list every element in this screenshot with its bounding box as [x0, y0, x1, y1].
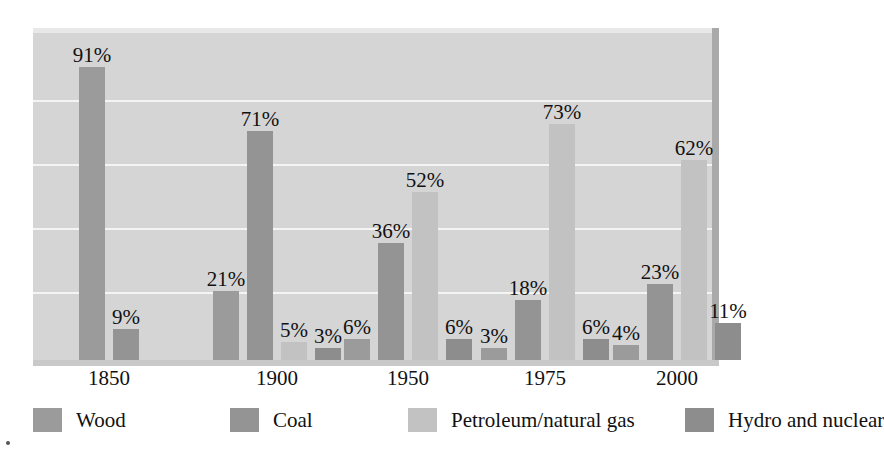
- legend-item[interactable]: Hydro and nuclear: [685, 408, 884, 432]
- bar-value-label: 9%: [112, 307, 140, 328]
- bar-value-label: 23%: [641, 262, 680, 283]
- bar[interactable]: 11%: [715, 323, 741, 360]
- bar-value-label: 36%: [372, 221, 411, 242]
- bar-value-label: 73%: [543, 102, 582, 123]
- legend-item[interactable]: Coal: [230, 408, 313, 432]
- bar-group-1950: 6%36%52%6%: [344, 33, 480, 360]
- bar[interactable]: 6%: [344, 339, 370, 360]
- bar-value-label: 6%: [445, 317, 473, 338]
- bar[interactable]: 18%: [515, 300, 541, 360]
- bar-group-2000: 4%23%62%11%: [613, 33, 749, 360]
- bar[interactable]: 52%: [412, 192, 438, 360]
- bar[interactable]: 3%: [481, 348, 507, 360]
- bar-value-label: 71%: [241, 109, 280, 130]
- bar[interactable]: 73%: [549, 124, 575, 360]
- bar-value-label: 52%: [406, 170, 445, 191]
- x-tick-label-1850: 1850: [88, 366, 130, 391]
- scan-artifact-speck: [6, 441, 10, 445]
- bar[interactable]: 4%: [613, 345, 639, 360]
- bar-value-label: 3%: [480, 326, 508, 347]
- bar-value-label: 18%: [509, 278, 548, 299]
- bar[interactable]: 71%: [247, 131, 273, 360]
- bar-value-label: 11%: [709, 301, 747, 322]
- legend-label: Wood: [76, 410, 126, 431]
- bar-value-label: 6%: [343, 317, 371, 338]
- bar[interactable]: 5%: [281, 342, 307, 360]
- plot-area: 91%9%21%71%5%3%6%36%52%6%3%18%73%6%4%23%…: [33, 33, 712, 360]
- chart-legend: WoodCoalPetroleum/natural gasHydro and n…: [33, 408, 773, 448]
- bar[interactable]: 36%: [378, 243, 404, 360]
- bar-value-label: 5%: [280, 320, 308, 341]
- bar-group-1850: 91%9%: [79, 33, 215, 360]
- x-tick-label-1900: 1900: [256, 366, 298, 391]
- bar[interactable]: 23%: [647, 284, 673, 360]
- legend-swatch-icon: [33, 408, 62, 432]
- legend-swatch-icon: [685, 408, 714, 432]
- legend-swatch-icon: [230, 408, 259, 432]
- bar[interactable]: 3%: [315, 348, 341, 360]
- bar-value-label: 4%: [612, 323, 640, 344]
- x-tick-label-2000: 2000: [656, 366, 698, 391]
- bar[interactable]: 62%: [681, 160, 707, 360]
- bar[interactable]: 91%: [79, 67, 105, 360]
- legend-swatch-icon: [408, 408, 437, 432]
- legend-label: Hydro and nuclear: [728, 410, 884, 431]
- legend-item[interactable]: Petroleum/natural gas: [408, 408, 635, 432]
- bar-value-label: 62%: [675, 138, 714, 159]
- legend-label: Petroleum/natural gas: [451, 410, 635, 431]
- x-tick-label-1950: 1950: [387, 366, 429, 391]
- bar[interactable]: 6%: [446, 339, 472, 360]
- bar[interactable]: 6%: [583, 339, 609, 360]
- bar-value-label: 21%: [207, 269, 246, 290]
- bar[interactable]: 21%: [213, 291, 239, 360]
- legend-item[interactable]: Wood: [33, 408, 126, 432]
- bar-value-label: 6%: [582, 317, 610, 338]
- x-tick-label-1975: 1975: [524, 366, 566, 391]
- bar-group-1975: 3%18%73%6%: [481, 33, 617, 360]
- bar-value-label: 3%: [314, 326, 342, 347]
- bar-value-label: 91%: [73, 45, 112, 66]
- bar[interactable]: 9%: [113, 329, 139, 360]
- legend-label: Coal: [273, 410, 313, 431]
- x-axis-tick-labels: 18501900195019752000: [33, 366, 712, 396]
- bar-group-1900: 21%71%5%3%: [213, 33, 349, 360]
